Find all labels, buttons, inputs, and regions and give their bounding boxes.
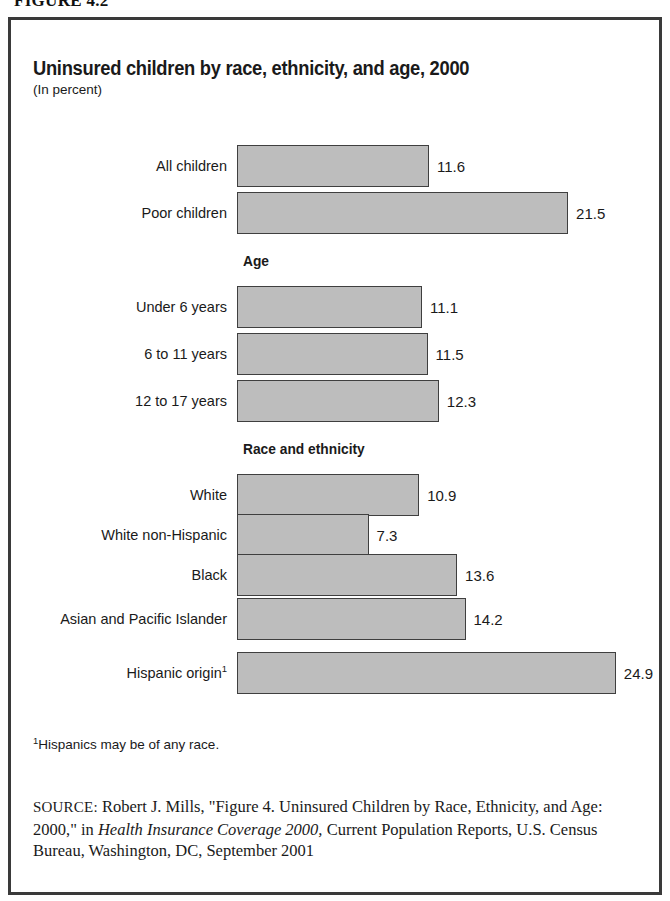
bar-label-footnote-marker: 1	[222, 663, 227, 674]
figure-frame: Uninsured children by race, ethnicity, a…	[8, 17, 662, 895]
figure-caption: FIGURE 4.2	[14, 0, 109, 11]
bar-category-label: Asian and Pacific Islander	[60, 612, 227, 627]
bar-category-label: All children	[156, 159, 227, 174]
source-note: SOURCE: Robert J. Mills, "Figure 4. Unin…	[33, 796, 647, 862]
bar-category-label: Under 6 years	[136, 300, 227, 315]
bar-category-label: Poor children	[142, 206, 227, 221]
bar	[237, 474, 419, 516]
bar	[237, 380, 439, 422]
bar-category-label: Hispanic origin1	[127, 666, 227, 681]
bar-category-label: White	[190, 488, 227, 503]
bar	[237, 554, 457, 596]
footnote: 1Hispanics may be of any race.	[33, 737, 219, 752]
bar-value-label: 11.6	[437, 159, 465, 174]
bar	[237, 192, 568, 234]
bar-value-label: 13.6	[465, 568, 494, 583]
bar-value-label: 21.5	[576, 206, 605, 221]
bar-value-label: 7.3	[377, 528, 398, 543]
bar-category-label: Black	[192, 568, 227, 583]
bar	[237, 652, 616, 694]
bar-value-label: 12.3	[447, 394, 476, 409]
group-header: Race and ethnicity	[243, 441, 365, 457]
bar	[237, 598, 466, 640]
bar-category-label: 6 to 11 years	[144, 347, 227, 362]
bar-category-label: White non-Hispanic	[101, 528, 227, 543]
bar	[237, 286, 422, 328]
source-publication-title: Health Insurance Coverage 2000,	[98, 820, 323, 839]
bar	[237, 514, 369, 556]
bar-value-label: 11.1	[430, 300, 458, 315]
group-header: Age	[243, 253, 269, 269]
bar-category-label: 12 to 17 years	[135, 394, 227, 409]
bar	[237, 145, 429, 187]
bar-value-label: 24.9	[624, 666, 653, 681]
footnote-text: Hispanics may be of any race.	[38, 737, 219, 752]
bar-chart-plot-area: All children11.6Poor children21.5Under 6…	[11, 20, 665, 898]
source-tag: SOURCE:	[33, 799, 98, 815]
bar-value-label: 11.5	[436, 347, 464, 362]
bar-value-label: 14.2	[474, 612, 503, 627]
bar-value-label: 10.9	[427, 488, 456, 503]
bar	[237, 333, 428, 375]
